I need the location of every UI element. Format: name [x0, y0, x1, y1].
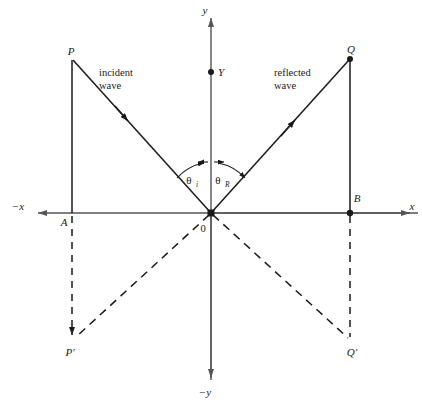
point-dot-B — [347, 210, 353, 216]
axis-label-x-negative: −x — [12, 200, 24, 212]
reflected-wave-label: reflected wave — [274, 67, 311, 91]
point-label-P-prime: P′ — [64, 346, 75, 358]
point-label-B: B — [354, 192, 361, 204]
point-label-A: A — [60, 216, 68, 228]
point-label-origin: 0 — [200, 223, 205, 234]
point-dot-origin — [208, 210, 215, 217]
reflected-wave-label-line1: reflected — [274, 67, 311, 78]
point-label-Q: Q — [347, 43, 355, 55]
reflected-angle-arc — [218, 163, 245, 178]
axis-group — [38, 18, 418, 380]
dashed-segment-O-to-P-prime — [76, 215, 209, 337]
axis-label-y-positive: y — [202, 4, 208, 16]
reflected-angle-symbol: θ — [215, 174, 220, 186]
incident-wave-label: incident wave — [99, 67, 133, 91]
reflected-angle-label: θ R — [215, 174, 230, 189]
point-label-Y: Y — [218, 66, 226, 78]
reflected-ray-direction-arrow — [281, 120, 295, 136]
axis-label-x-positive: x — [409, 200, 415, 212]
diagram-canvas: y −y x −x θ i — [0, 0, 422, 405]
point-label-Q-prime: Q′ — [347, 346, 358, 358]
incident-wave-label-line2: wave — [99, 80, 121, 91]
incident-ray-line — [73, 60, 211, 213]
incident-angle-subscript: i — [196, 180, 198, 189]
incident-ray-direction-arrow — [115, 106, 128, 121]
reflected-angle-subscript: R — [224, 180, 230, 189]
wave-reflection-diagram: y −y x −x θ i — [0, 0, 422, 405]
point-dot-Y — [208, 69, 214, 75]
incident-wave-label-line1: incident — [99, 67, 133, 78]
point-label-P: P — [67, 45, 75, 57]
reflected-wave-label-line2: wave — [274, 80, 296, 91]
axis-label-y-negative: −y — [199, 386, 211, 398]
incident-angle-symbol: θ — [186, 174, 191, 186]
point-dot-Q — [347, 56, 353, 62]
dashed-segment-O-to-Q-prime — [213, 215, 348, 338]
